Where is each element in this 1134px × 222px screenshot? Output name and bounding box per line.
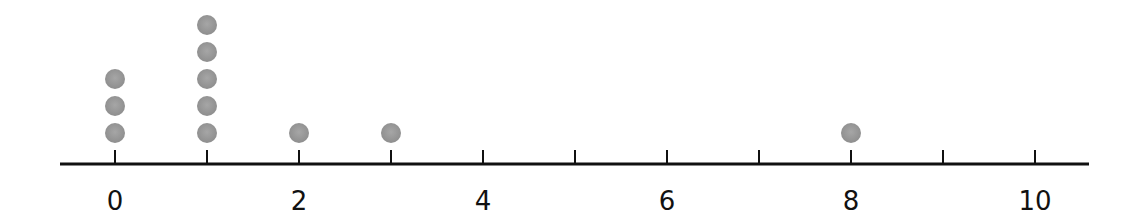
x-axis-tick-labels: 0246810 [107,186,1052,216]
data-dot [105,96,125,116]
x-tick-label: 6 [659,186,676,216]
data-dot [197,123,217,143]
x-tick-label: 2 [291,186,308,216]
x-tick-label: 4 [475,186,492,216]
data-dot [197,42,217,62]
data-dot [105,69,125,89]
data-dot [197,15,217,35]
x-axis-ticks [115,150,1035,164]
data-dot [289,123,309,143]
x-tick-label: 10 [1018,186,1051,216]
dot-plot: 0246810 [0,0,1134,222]
x-tick-label: 8 [843,186,860,216]
x-tick-label: 0 [107,186,124,216]
data-dot [105,123,125,143]
data-dots [105,15,861,143]
data-dot [841,123,861,143]
data-dot [197,96,217,116]
data-dot [381,123,401,143]
data-dot [197,69,217,89]
